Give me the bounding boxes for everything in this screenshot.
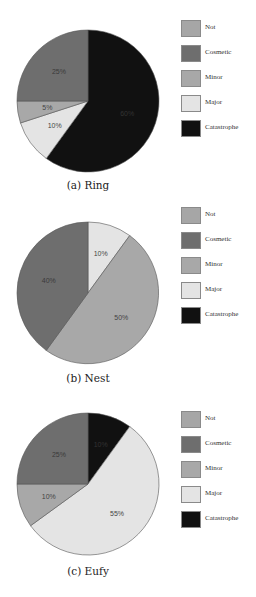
legend-label: Not (205, 210, 216, 218)
legend-item-not: Not (181, 411, 256, 429)
legend-swatch-major (181, 95, 201, 112)
legend-swatch-cosmetic (181, 436, 201, 453)
legend-item-major: Major (181, 95, 256, 113)
legend-swatch-minor (181, 70, 201, 87)
slice-label: 5% (42, 104, 52, 111)
legend-swatch-catastrophe (181, 120, 201, 137)
legend-swatch-cosmetic (181, 232, 201, 249)
legend-item-minor: Minor (181, 257, 256, 275)
chart-panel-nest: 10%50%40% Not Cosmetic Minor Major Catas… (0, 200, 256, 400)
slice-label: 25% (52, 451, 66, 458)
slice-label: 50% (114, 314, 128, 321)
legend-label: Minor (205, 260, 223, 268)
legend-label: Not (205, 23, 216, 31)
legend-item-cosmetic: Cosmetic (181, 436, 256, 454)
slice-label: 10% (42, 493, 56, 500)
legend-label: Catastrophe (205, 310, 238, 318)
legend-swatch-not (181, 207, 201, 224)
slice-label: 55% (110, 510, 124, 517)
slice-label: 60% (120, 110, 134, 117)
slice-label: 25% (52, 68, 66, 75)
legend-label: Major (205, 489, 222, 497)
legend-swatch-major (181, 486, 201, 503)
legend-swatch-not (181, 20, 201, 37)
slice-label: 40% (42, 277, 56, 284)
pie-chart-nest: 10%50%40% (16, 221, 160, 365)
legend-item-catastrophe: Catastrophe (181, 307, 256, 325)
legend-label: Cosmetic (205, 48, 231, 56)
pie-slice-cosmetic (17, 413, 88, 484)
pie-chart-eufy: 10%55%10%25% (16, 412, 160, 556)
legend-label: Catastrophe (205, 123, 238, 131)
caption-ring: (a) Ring (0, 179, 176, 191)
legend-label: Minor (205, 73, 223, 81)
slice-label: 10% (94, 441, 108, 448)
legend-item-not: Not (181, 20, 256, 38)
legend-swatch-minor (181, 461, 201, 478)
legend-item-catastrophe: Catastrophe (181, 511, 256, 529)
chart-panel-ring: 60%10%5%25% Not Cosmetic Minor Major Cat… (0, 0, 256, 200)
legend-item-cosmetic: Cosmetic (181, 232, 256, 250)
legend-swatch-catastrophe (181, 511, 201, 528)
legend-label: Minor (205, 464, 223, 472)
pie-slice-cosmetic (17, 30, 88, 101)
caption-nest: (b) Nest (0, 372, 176, 384)
legend-item-major: Major (181, 486, 256, 504)
legend-item-not: Not (181, 207, 256, 225)
legend-label: Cosmetic (205, 439, 231, 447)
legend-label: Major (205, 285, 222, 293)
chart-panel-eufy: 10%55%10%25% Not Cosmetic Minor Major Ca… (0, 400, 256, 597)
legend-item-minor: Minor (181, 70, 256, 88)
pie-chart-ring: 60%10%5%25% (16, 29, 160, 173)
caption-eufy: (c) Eufy (0, 565, 176, 577)
legend-item-catastrophe: Catastrophe (181, 120, 256, 138)
legend-label: Not (205, 414, 216, 422)
legend-label: Major (205, 98, 222, 106)
slice-label: 10% (48, 122, 62, 129)
legend-label: Catastrophe (205, 514, 238, 522)
legend-swatch-major (181, 282, 201, 299)
legend-swatch-cosmetic (181, 45, 201, 62)
legend-swatch-minor (181, 257, 201, 274)
legend-swatch-catastrophe (181, 307, 201, 324)
slice-label: 10% (94, 250, 108, 257)
legend-swatch-not (181, 411, 201, 428)
legend-item-minor: Minor (181, 461, 256, 479)
legend-item-major: Major (181, 282, 256, 300)
legend-item-cosmetic: Cosmetic (181, 45, 256, 63)
legend-label: Cosmetic (205, 235, 231, 243)
